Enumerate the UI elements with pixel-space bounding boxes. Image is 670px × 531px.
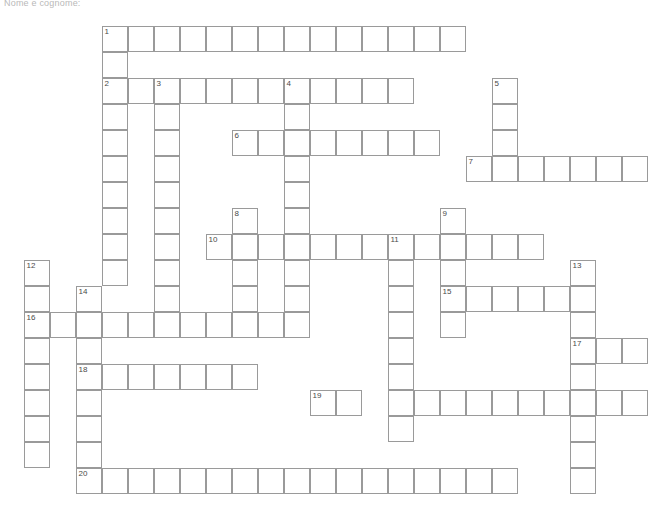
crossword-cell[interactable] bbox=[180, 364, 206, 390]
crossword-cell[interactable] bbox=[570, 442, 596, 468]
crossword-cell[interactable] bbox=[414, 26, 440, 52]
crossword-cell[interactable] bbox=[544, 156, 570, 182]
crossword-cell[interactable] bbox=[310, 26, 336, 52]
crossword-cell[interactable]: 7 bbox=[466, 156, 492, 182]
crossword-cell[interactable]: 19 bbox=[310, 390, 336, 416]
crossword-cell[interactable] bbox=[284, 286, 310, 312]
crossword-cell[interactable] bbox=[492, 468, 518, 494]
crossword-cell[interactable] bbox=[102, 182, 128, 208]
crossword-cell[interactable] bbox=[258, 26, 284, 52]
crossword-cell[interactable]: 12 bbox=[24, 260, 50, 286]
crossword-cell[interactable] bbox=[310, 468, 336, 494]
crossword-cell[interactable] bbox=[492, 286, 518, 312]
crossword-cell[interactable] bbox=[232, 468, 258, 494]
crossword-cell[interactable] bbox=[102, 130, 128, 156]
crossword-cell[interactable] bbox=[336, 468, 362, 494]
crossword-cell[interactable] bbox=[284, 26, 310, 52]
crossword-cell[interactable] bbox=[414, 234, 440, 260]
crossword-cell[interactable] bbox=[570, 468, 596, 494]
crossword-cell[interactable] bbox=[154, 26, 180, 52]
crossword-cell[interactable] bbox=[440, 234, 466, 260]
crossword-cell[interactable] bbox=[284, 182, 310, 208]
crossword-cell[interactable] bbox=[284, 260, 310, 286]
crossword-cell[interactable] bbox=[154, 130, 180, 156]
crossword-cell[interactable] bbox=[492, 390, 518, 416]
crossword-cell[interactable] bbox=[544, 286, 570, 312]
crossword-cell[interactable] bbox=[622, 390, 648, 416]
crossword-cell[interactable] bbox=[492, 130, 518, 156]
crossword-cell[interactable] bbox=[232, 234, 258, 260]
crossword-cell[interactable] bbox=[362, 234, 388, 260]
crossword-cell[interactable] bbox=[570, 416, 596, 442]
crossword-cell[interactable] bbox=[388, 390, 414, 416]
crossword-cell[interactable] bbox=[388, 130, 414, 156]
crossword-cell[interactable] bbox=[128, 78, 154, 104]
crossword-cell[interactable] bbox=[24, 286, 50, 312]
crossword-cell[interactable] bbox=[232, 312, 258, 338]
crossword-cell[interactable] bbox=[336, 78, 362, 104]
crossword-cell[interactable] bbox=[154, 286, 180, 312]
crossword-cell[interactable] bbox=[24, 390, 50, 416]
crossword-cell[interactable] bbox=[102, 364, 128, 390]
crossword-cell[interactable] bbox=[440, 260, 466, 286]
crossword-cell[interactable] bbox=[518, 156, 544, 182]
crossword-cell[interactable] bbox=[336, 234, 362, 260]
crossword-cell[interactable]: 13 bbox=[570, 260, 596, 286]
crossword-cell[interactable] bbox=[466, 234, 492, 260]
crossword-cell[interactable] bbox=[570, 312, 596, 338]
crossword-cell[interactable] bbox=[128, 26, 154, 52]
crossword-cell[interactable] bbox=[258, 468, 284, 494]
crossword-cell[interactable] bbox=[24, 338, 50, 364]
crossword-cell[interactable] bbox=[154, 468, 180, 494]
crossword-cell[interactable]: 9 bbox=[440, 208, 466, 234]
crossword-cell[interactable] bbox=[76, 390, 102, 416]
crossword-cell[interactable] bbox=[492, 104, 518, 130]
crossword-cell[interactable] bbox=[102, 208, 128, 234]
crossword-cell[interactable] bbox=[102, 156, 128, 182]
crossword-cell[interactable] bbox=[622, 156, 648, 182]
crossword-cell[interactable] bbox=[414, 390, 440, 416]
crossword-cell[interactable] bbox=[388, 416, 414, 442]
crossword-cell[interactable] bbox=[388, 78, 414, 104]
crossword-cell[interactable] bbox=[310, 78, 336, 104]
crossword-cell[interactable] bbox=[24, 364, 50, 390]
crossword-cell[interactable] bbox=[24, 416, 50, 442]
crossword-cell[interactable] bbox=[206, 468, 232, 494]
crossword-cell[interactable] bbox=[154, 104, 180, 130]
crossword-grid[interactable]: 1151416171819204523679811101213 bbox=[0, 0, 670, 531]
crossword-cell[interactable] bbox=[154, 234, 180, 260]
crossword-cell[interactable] bbox=[258, 312, 284, 338]
crossword-cell[interactable] bbox=[544, 390, 570, 416]
crossword-cell[interactable] bbox=[336, 130, 362, 156]
crossword-cell[interactable] bbox=[518, 234, 544, 260]
crossword-cell[interactable] bbox=[102, 234, 128, 260]
crossword-cell[interactable] bbox=[310, 234, 336, 260]
crossword-cell[interactable] bbox=[362, 468, 388, 494]
crossword-cell[interactable] bbox=[284, 130, 310, 156]
crossword-cell[interactable] bbox=[232, 364, 258, 390]
crossword-cell[interactable] bbox=[362, 26, 388, 52]
crossword-cell[interactable] bbox=[492, 156, 518, 182]
crossword-cell[interactable]: 8 bbox=[232, 208, 258, 234]
crossword-cell[interactable] bbox=[206, 78, 232, 104]
crossword-cell[interactable] bbox=[466, 390, 492, 416]
crossword-cell[interactable] bbox=[102, 468, 128, 494]
crossword-cell[interactable] bbox=[284, 156, 310, 182]
crossword-cell[interactable] bbox=[180, 78, 206, 104]
crossword-cell[interactable]: 20 bbox=[76, 468, 102, 494]
crossword-cell[interactable] bbox=[76, 338, 102, 364]
crossword-cell[interactable] bbox=[76, 416, 102, 442]
crossword-cell[interactable] bbox=[518, 390, 544, 416]
crossword-cell[interactable] bbox=[414, 130, 440, 156]
crossword-cell[interactable] bbox=[388, 286, 414, 312]
crossword-cell[interactable] bbox=[414, 468, 440, 494]
crossword-cell[interactable] bbox=[362, 130, 388, 156]
crossword-cell[interactable] bbox=[154, 260, 180, 286]
crossword-cell[interactable] bbox=[388, 338, 414, 364]
crossword-cell[interactable] bbox=[128, 364, 154, 390]
crossword-cell[interactable] bbox=[336, 26, 362, 52]
crossword-cell[interactable]: 15 bbox=[440, 286, 466, 312]
crossword-cell[interactable] bbox=[154, 364, 180, 390]
crossword-cell[interactable] bbox=[154, 208, 180, 234]
crossword-cell[interactable] bbox=[102, 52, 128, 78]
